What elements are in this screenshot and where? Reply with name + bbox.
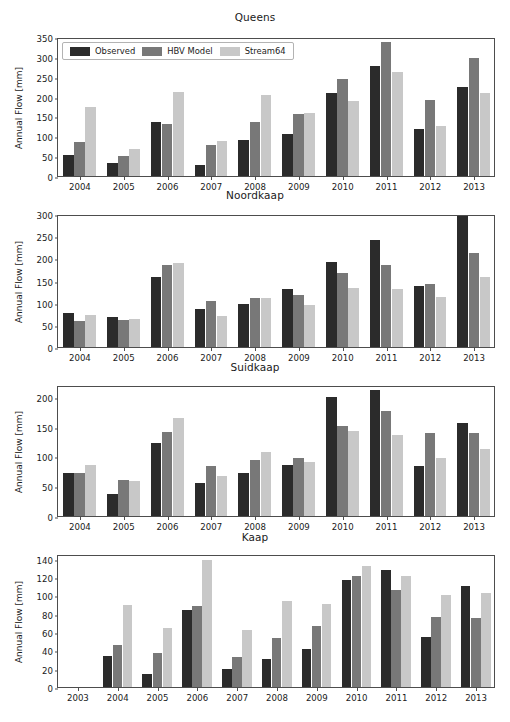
bar [261, 298, 271, 347]
bar [337, 79, 347, 176]
x-tick-mark [387, 176, 388, 180]
bar [392, 72, 402, 176]
bar [182, 610, 191, 687]
bar [431, 617, 440, 687]
bars-layer [58, 556, 494, 687]
bar [85, 315, 95, 347]
bar [457, 216, 467, 347]
bar [469, 253, 479, 347]
bar [151, 443, 161, 516]
legend-entry: Observed [70, 46, 135, 56]
bar [322, 604, 331, 687]
bar [362, 566, 371, 687]
bar [118, 320, 128, 347]
bar [436, 458, 446, 516]
subplot-title: Suidkaap [0, 361, 510, 374]
x-tick-mark [211, 347, 212, 351]
bar [202, 560, 211, 687]
y-axis-label: Annual Flow [mm] [14, 410, 24, 492]
bar [425, 284, 435, 347]
bar [261, 452, 271, 516]
bar [457, 87, 467, 176]
bar [173, 263, 183, 347]
bar [348, 431, 358, 516]
bar [195, 483, 205, 516]
x-tick-mark [80, 516, 81, 520]
bar [63, 155, 73, 176]
x-tick-mark [168, 516, 169, 520]
bar [326, 397, 336, 516]
x-tick-mark [396, 687, 397, 691]
bar [326, 93, 336, 176]
legend-label: Observed [95, 46, 135, 56]
x-tick-mark [211, 176, 212, 180]
bar [272, 638, 281, 687]
bar [85, 465, 95, 516]
bar [282, 601, 291, 687]
x-tick-mark [430, 347, 431, 351]
bar [370, 66, 380, 176]
x-tick-mark [80, 347, 81, 351]
x-tick-mark [237, 687, 238, 691]
x-tick-mark [357, 687, 358, 691]
y-axis-label: Annual Flow [mm] [14, 66, 24, 148]
bar [469, 433, 479, 516]
legend-entry: HBV Model [142, 46, 212, 56]
bar [381, 265, 391, 347]
bar [74, 473, 84, 516]
bar [304, 462, 314, 516]
bar [262, 659, 271, 687]
bar [480, 93, 490, 176]
bar [381, 570, 390, 687]
x-tick-mark [168, 176, 169, 180]
x-tick-mark [474, 516, 475, 520]
bar [162, 265, 172, 347]
bar [425, 100, 435, 176]
x-tick-mark [255, 176, 256, 180]
bar [63, 473, 73, 516]
bar [337, 273, 347, 347]
bar [342, 580, 351, 687]
bar [348, 101, 358, 176]
x-tick-mark [299, 516, 300, 520]
bar [153, 653, 162, 687]
legend: ObservedHBV ModelStream64 [62, 42, 294, 60]
bar [469, 58, 479, 176]
bar [352, 576, 361, 687]
x-tick-mark [436, 687, 437, 691]
plot-area: 0501001502002503002004200520062007200820… [57, 215, 495, 348]
x-tick-mark [474, 347, 475, 351]
y-tick-mark [55, 349, 59, 350]
x-tick-mark [387, 347, 388, 351]
bar [293, 295, 303, 347]
bar [337, 426, 347, 517]
x-tick-mark [80, 176, 81, 180]
bar [195, 309, 205, 347]
bar [238, 140, 248, 176]
bar [107, 163, 117, 176]
x-tick-mark [255, 516, 256, 520]
bar [414, 286, 424, 347]
x-tick-mark [430, 516, 431, 520]
bar [242, 630, 251, 687]
bar [118, 156, 128, 176]
y-tick-mark [55, 178, 59, 179]
x-tick-mark [118, 687, 119, 691]
x-tick-mark [299, 347, 300, 351]
bar [381, 42, 391, 176]
bar [151, 277, 161, 347]
x-tick-mark [387, 516, 388, 520]
figure-canvas: QueensAnnual Flow [mm]050100150200250300… [0, 0, 510, 722]
bar [85, 107, 95, 176]
bar [123, 605, 132, 687]
bar [129, 481, 139, 516]
bar [401, 576, 410, 687]
bar [282, 134, 292, 176]
bar [370, 240, 380, 347]
bar [414, 466, 424, 516]
bar [250, 298, 260, 347]
bar [195, 165, 205, 176]
bar [421, 637, 430, 687]
bar [206, 466, 216, 516]
bar [282, 289, 292, 347]
